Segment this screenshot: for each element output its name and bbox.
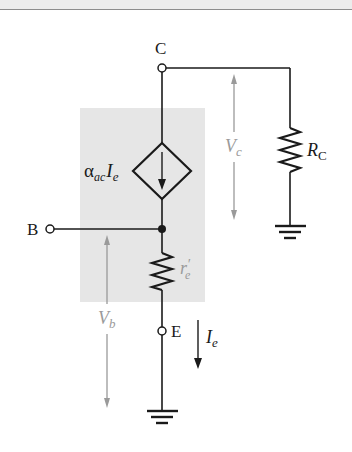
collector-terminal	[158, 64, 166, 72]
emitter-terminal	[158, 327, 166, 335]
collector-resistor-icon	[280, 128, 300, 172]
rc-label: RC	[306, 140, 327, 163]
base-label: B	[27, 220, 38, 239]
collector-label: C	[155, 39, 166, 58]
ie-current-arrow-icon	[194, 320, 202, 369]
vb-label: Vb	[98, 308, 116, 331]
emitter-label: E	[171, 322, 181, 341]
ground-icon-collector	[275, 226, 306, 238]
ground-icon-emitter	[147, 411, 178, 423]
base-terminal	[46, 225, 54, 233]
vc-label: Vc	[225, 136, 242, 159]
junction-dot	[158, 225, 166, 233]
ie-label: Ie	[205, 327, 218, 350]
circuit-diagram: C B E αacIe r′e RC Vc Vb Ie	[0, 0, 352, 452]
